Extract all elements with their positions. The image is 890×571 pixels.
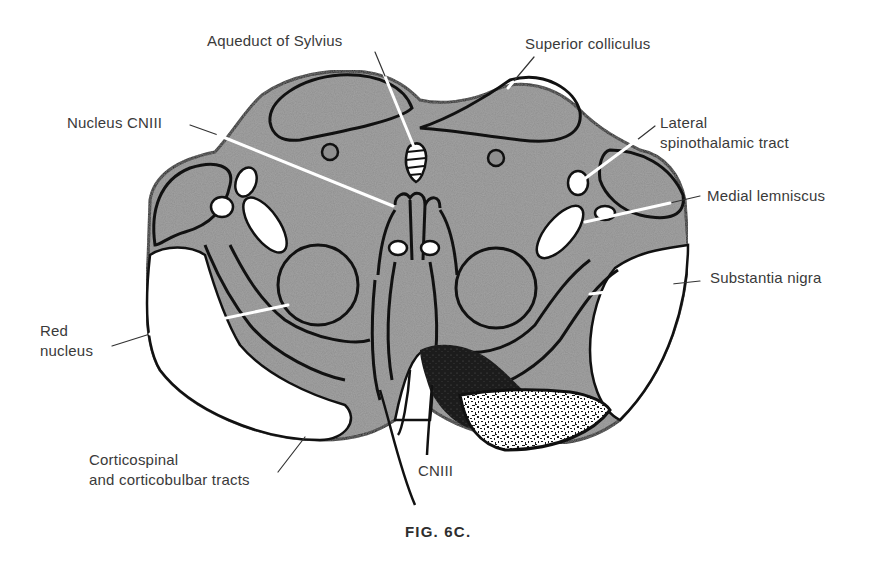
- label-nucleus-cn3: Nucleus CNIII: [67, 113, 162, 133]
- small-nucleus-right: [488, 150, 504, 166]
- label-corticospinal-line1: Corticospinal: [89, 450, 250, 470]
- label-corticospinal-corticobulbar-tracts: Corticospinal and corticobulbar tracts: [89, 450, 250, 490]
- label-red-nucleus: Red nucleus: [40, 321, 93, 361]
- label-aqueduct-of-sylvius: Aqueduct of Sylvius: [207, 31, 343, 51]
- lesion-speckled-region: [460, 390, 610, 450]
- label-medial-lemniscus: Medial lemniscus: [707, 186, 825, 206]
- label-red-nucleus-line1: Red: [40, 321, 93, 341]
- figure-caption: FIG. 6C.: [405, 523, 471, 540]
- label-superior-colliculus: Superior colliculus: [525, 34, 651, 54]
- label-red-nucleus-line2: nucleus: [40, 341, 93, 361]
- small-nucleus-left: [322, 144, 338, 160]
- label-lateral-spinothalamic-line1: Lateral: [660, 113, 789, 133]
- label-cn3: CNIII: [418, 461, 453, 481]
- label-lateral-spinothalamic-tract: Lateral spinothalamic tract: [660, 113, 789, 153]
- left-small-white-oval: [211, 197, 233, 217]
- label-substantia-nigra: Substantia nigra: [710, 268, 822, 288]
- right-spinothalamic-tract: [568, 171, 588, 195]
- label-lateral-spinothalamic-line2: spinothalamic tract: [660, 133, 789, 153]
- label-corticospinal-line2: and corticobulbar tracts: [89, 470, 250, 490]
